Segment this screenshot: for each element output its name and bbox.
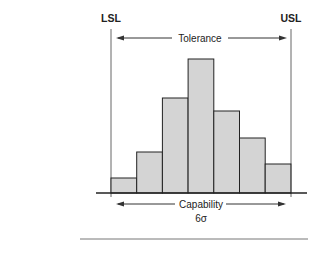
bar-6 (240, 138, 266, 193)
bar-1 (111, 178, 137, 193)
histogram-bars (111, 59, 291, 193)
tolerance-label: Tolerance (178, 33, 222, 44)
capability-label: Capability (179, 199, 223, 210)
bar-4 (188, 59, 214, 193)
arrow-right-icon (278, 202, 286, 207)
capability-diagram: LSL USL Tolerance Capability 6σ (0, 0, 320, 253)
bar-3 (162, 98, 188, 193)
arrow-left-icon (116, 202, 124, 207)
sigma-label: 6σ (195, 213, 208, 224)
arrow-left-icon (116, 36, 124, 41)
usl-label: USL (281, 12, 303, 24)
bar-7 (265, 164, 291, 193)
bar-5 (214, 111, 240, 193)
lsl-label: LSL (101, 12, 121, 24)
bar-2 (137, 152, 163, 193)
arrow-right-icon (279, 36, 287, 41)
